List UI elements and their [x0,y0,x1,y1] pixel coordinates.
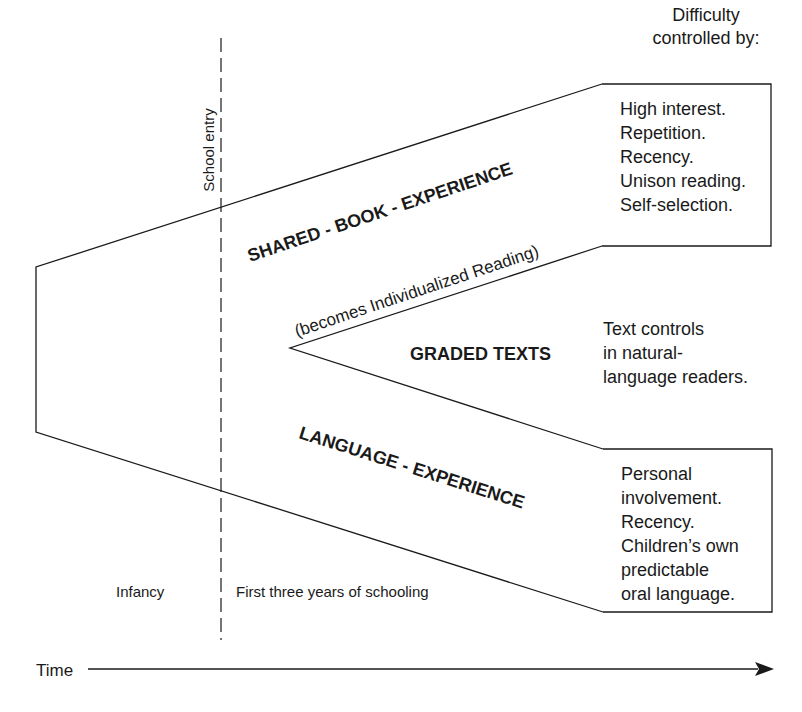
individualized-reading-label: (becomes Individualized Reading) [292,242,541,341]
school-entry-label: School entry [200,108,217,192]
time-axis-label: Time [36,661,73,680]
schooling-label: First three years of schooling [236,583,429,600]
language-experience-label: LANGUAGE - EXPERIENCE [297,423,527,513]
infancy-label: Infancy [116,583,165,600]
language-experience-control-2: involvement. [621,488,722,508]
language-experience-control-4: Children’s own [621,536,739,556]
shared-book-control-2: Repetition. [620,123,706,143]
diagram-canvas: Difficulty controlled by: School entry S… [0,0,802,712]
diagram-svg: Difficulty controlled by: School entry S… [0,0,802,712]
language-experience-control-1: Personal [621,464,692,484]
graded-texts-control-2: in natural- [603,343,683,363]
language-experience-control-6: oral language. [621,584,735,604]
shared-book-label: SHARED - BOOK - EXPERIENCE [245,159,515,266]
difficulty-heading-line2: controlled by: [652,28,759,48]
shared-book-control-1: High interest. [620,99,726,119]
language-experience-control-3: Recency. [621,512,695,532]
graded-texts-control-3: language readers. [603,367,748,387]
difficulty-heading-line1: Difficulty [672,5,740,25]
graded-texts-label: GRADED TEXTS [410,344,551,364]
graded-texts-control-1: Text controls [603,319,704,339]
language-experience-control-5: predictable [621,560,709,580]
shared-book-control-5: Self-selection. [620,195,733,215]
shared-book-control-4: Unison reading. [620,171,746,191]
shared-book-control-3: Recency. [620,147,694,167]
